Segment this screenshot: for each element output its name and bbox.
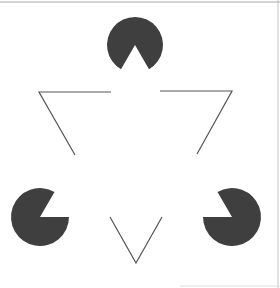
outline-bottom-corner (110, 217, 162, 263)
outline-left-corner (39, 92, 111, 155)
pacman-top (107, 17, 163, 69)
pacman-bottom-left (11, 188, 69, 246)
outline-right-corner (160, 91, 232, 154)
kanizsa-figure (0, 0, 280, 288)
pacman-bottom-right (203, 188, 261, 246)
illusion-canvas (0, 0, 280, 288)
